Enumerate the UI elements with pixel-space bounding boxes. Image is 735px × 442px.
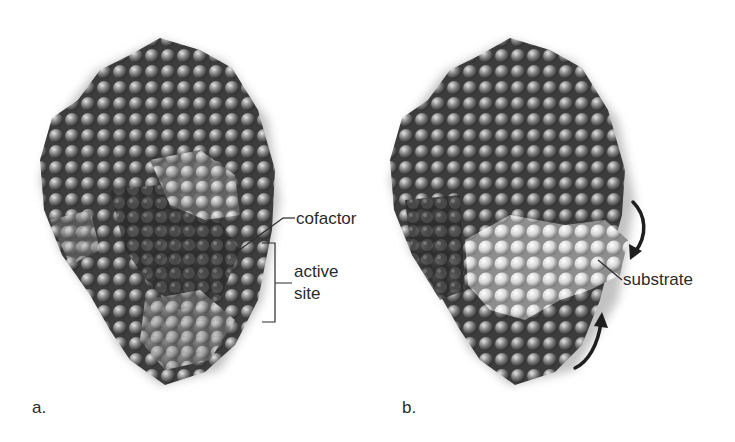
panel-a-letter: a. bbox=[32, 398, 46, 418]
panel-a-enzyme-without-substrate: cofactor active site a. bbox=[0, 0, 360, 442]
active-site-label-line1: active bbox=[294, 262, 338, 281]
enzyme-model-b bbox=[350, 0, 735, 442]
cofactor-label: cofactor bbox=[296, 209, 356, 228]
curved-arrow-down-icon bbox=[633, 202, 644, 252]
substrate-label: substrate bbox=[623, 270, 693, 289]
active-site-label-line2: site bbox=[294, 284, 320, 303]
protein-dark-region bbox=[405, 195, 465, 300]
panel-b-enzyme-with-substrate: substrate b. bbox=[350, 0, 735, 442]
panel-b-letter: b. bbox=[402, 398, 416, 418]
